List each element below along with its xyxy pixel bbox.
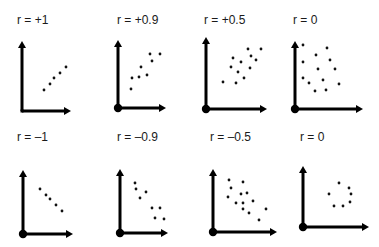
data-point bbox=[65, 66, 68, 69]
data-point bbox=[247, 48, 250, 51]
data-point bbox=[350, 193, 353, 196]
data-point bbox=[250, 55, 253, 58]
data-point bbox=[237, 71, 240, 74]
scatter-panel bbox=[209, 169, 277, 236]
data-point bbox=[43, 89, 46, 92]
data-point bbox=[131, 77, 134, 80]
x-axis-arrow-icon bbox=[159, 104, 166, 112]
data-point bbox=[302, 77, 305, 80]
scatter-panel bbox=[116, 169, 168, 237]
data-point bbox=[163, 218, 166, 221]
data-point bbox=[228, 179, 231, 182]
data-point bbox=[222, 81, 225, 84]
x-axis-arrow-icon bbox=[270, 228, 277, 236]
origin-dot bbox=[291, 105, 299, 113]
data-point bbox=[140, 66, 143, 69]
data-point bbox=[302, 61, 305, 64]
panel-label-r-plus-1: r = +1 bbox=[17, 13, 49, 27]
data-point bbox=[315, 54, 318, 57]
y-axis-arrow-icon bbox=[116, 169, 124, 176]
scatter-panel bbox=[299, 166, 369, 231]
scatter-panel bbox=[291, 41, 363, 113]
data-point bbox=[265, 208, 268, 211]
data-point bbox=[248, 212, 251, 215]
data-point bbox=[235, 82, 238, 85]
origin-dot bbox=[299, 223, 307, 231]
data-point bbox=[138, 76, 141, 79]
data-point bbox=[342, 205, 345, 208]
data-point bbox=[151, 207, 154, 210]
data-point bbox=[255, 59, 258, 62]
panel-label-r-plus-0-5: r = +0.5 bbox=[204, 13, 246, 27]
x-axis-arrow-icon bbox=[64, 107, 71, 115]
data-point bbox=[159, 207, 162, 210]
data-point bbox=[151, 60, 154, 63]
panel-label-r-minus-0-5: r = –0.5 bbox=[210, 130, 251, 144]
data-point bbox=[232, 57, 235, 60]
y-axis-arrow-icon bbox=[19, 170, 27, 177]
data-point bbox=[53, 77, 56, 80]
data-point bbox=[260, 48, 263, 51]
data-point bbox=[258, 219, 261, 222]
origin-dot bbox=[19, 230, 27, 238]
data-point bbox=[154, 217, 157, 220]
panel-label-r-minus-1: r = –1 bbox=[17, 130, 48, 144]
data-point bbox=[146, 74, 149, 77]
data-point bbox=[308, 82, 311, 85]
data-point bbox=[338, 83, 341, 86]
data-point bbox=[242, 181, 245, 184]
data-point bbox=[333, 205, 336, 208]
scatter-panel bbox=[18, 41, 71, 115]
data-point bbox=[317, 68, 320, 71]
origin-dot bbox=[114, 104, 122, 112]
data-point bbox=[49, 83, 52, 86]
origin-dot bbox=[202, 105, 210, 113]
data-point bbox=[230, 187, 233, 190]
data-point bbox=[135, 188, 138, 191]
data-point bbox=[240, 193, 243, 196]
data-point bbox=[235, 202, 238, 205]
y-axis-arrow-icon bbox=[114, 40, 122, 47]
data-point bbox=[302, 44, 305, 47]
y-axis-arrow-icon bbox=[18, 41, 26, 48]
data-point bbox=[149, 53, 152, 56]
x-axis-arrow-icon bbox=[362, 223, 369, 231]
scatter-panel bbox=[19, 170, 73, 238]
data-point bbox=[246, 192, 249, 195]
data-point bbox=[139, 197, 142, 200]
origin-dot bbox=[209, 228, 217, 236]
data-point bbox=[252, 200, 255, 203]
y-axis-arrow-icon bbox=[202, 37, 210, 44]
data-point bbox=[314, 90, 317, 93]
data-point bbox=[134, 182, 137, 185]
data-point bbox=[227, 196, 230, 199]
y-axis-arrow-icon bbox=[291, 41, 299, 48]
data-point bbox=[242, 202, 245, 205]
data-point bbox=[242, 208, 245, 211]
data-point bbox=[59, 72, 62, 75]
y-axis-arrow-icon bbox=[299, 166, 307, 173]
data-point bbox=[230, 66, 233, 69]
data-point bbox=[61, 210, 64, 213]
data-point bbox=[159, 53, 162, 56]
data-point bbox=[130, 88, 133, 91]
panel-label-r-zero-top: r = 0 bbox=[293, 13, 318, 27]
data-point bbox=[326, 47, 329, 50]
data-point bbox=[55, 204, 58, 207]
correlation-scatter-figure: r = +1 r = +0.9 r = +0.5 r = 0 r = –1 r … bbox=[0, 0, 379, 247]
origin-dot bbox=[116, 229, 124, 237]
data-point bbox=[334, 68, 337, 71]
y-axis-arrow-icon bbox=[209, 169, 217, 176]
data-point bbox=[49, 198, 52, 201]
origin-corner bbox=[21, 110, 24, 113]
scatter-panel bbox=[114, 40, 166, 112]
data-point bbox=[348, 187, 351, 190]
data-point bbox=[329, 59, 332, 62]
panel-label-r-plus-0-9: r = +0.9 bbox=[117, 13, 159, 27]
data-point bbox=[249, 67, 252, 70]
data-point bbox=[45, 194, 48, 197]
panel-label-r-zero-bottom: r = 0 bbox=[300, 130, 325, 144]
data-point bbox=[240, 61, 243, 64]
data-point bbox=[243, 77, 246, 80]
scatter-panel bbox=[202, 37, 267, 113]
